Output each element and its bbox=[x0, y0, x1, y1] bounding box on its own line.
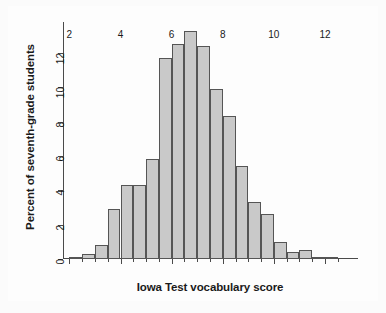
x-axis-minor-tick bbox=[159, 259, 160, 262]
x-tick-label: 6 bbox=[169, 29, 175, 40]
histogram-bar bbox=[248, 202, 261, 259]
histogram-bar bbox=[146, 159, 159, 259]
x-axis-minor-tick bbox=[108, 259, 109, 262]
x-axis-minor-tick bbox=[312, 259, 313, 262]
x-axis-minor-tick bbox=[248, 259, 249, 262]
histogram-bar bbox=[121, 185, 134, 259]
histogram-bar bbox=[159, 58, 172, 259]
y-tick-label: 10 bbox=[54, 87, 68, 98]
x-axis-tick bbox=[172, 259, 173, 264]
x-axis-tick bbox=[223, 259, 224, 264]
x-tick-label: 8 bbox=[220, 29, 226, 40]
histogram-bar bbox=[261, 214, 274, 259]
y-tick-label: 8 bbox=[54, 122, 68, 128]
histogram-bar bbox=[69, 257, 82, 259]
histogram-bar bbox=[312, 257, 325, 259]
histogram-bar bbox=[287, 252, 300, 259]
x-axis-minor-tick bbox=[236, 259, 237, 262]
y-axis-title: Percent of seventh-grade students bbox=[22, 22, 38, 252]
x-axis-tick bbox=[274, 259, 275, 264]
x-tick-label: 4 bbox=[118, 29, 124, 40]
histogram-bar bbox=[184, 31, 197, 259]
histogram-bar bbox=[95, 245, 108, 259]
x-axis-minor-tick bbox=[184, 259, 185, 262]
x-tick-label: 12 bbox=[319, 29, 330, 40]
y-tick-label: 12 bbox=[54, 53, 68, 64]
x-axis-minor-tick bbox=[146, 259, 147, 262]
x-axis-tick bbox=[69, 259, 70, 264]
histogram-bar bbox=[299, 250, 312, 259]
x-axis-minor-tick bbox=[299, 259, 300, 262]
y-tick-label: 2 bbox=[54, 225, 68, 231]
x-axis-minor-tick bbox=[133, 259, 134, 262]
x-axis-title: Iowa Test vocabulary score bbox=[60, 281, 360, 293]
histogram-bar bbox=[223, 116, 236, 259]
y-tick-label: 0 bbox=[54, 259, 68, 265]
x-axis-minor-tick bbox=[95, 259, 96, 262]
histogram-bar bbox=[210, 89, 223, 259]
x-axis-minor-tick bbox=[261, 259, 262, 262]
y-tick-label: 6 bbox=[54, 156, 68, 162]
x-axis-minor-tick bbox=[287, 259, 288, 262]
histogram-figure: Percent of seventh-grade students Iowa T… bbox=[0, 0, 386, 313]
histogram-bar bbox=[108, 209, 121, 259]
histogram-bar bbox=[82, 254, 95, 259]
histogram-bar bbox=[274, 242, 287, 259]
x-axis-tick bbox=[121, 259, 122, 264]
x-axis-minor-tick bbox=[197, 259, 198, 262]
x-axis-minor-tick bbox=[210, 259, 211, 262]
histogram-bar bbox=[325, 257, 338, 259]
x-axis-minor-tick bbox=[338, 259, 339, 262]
y-axis-title-text: Percent of seventh-grade students bbox=[22, 22, 38, 252]
histogram-bar bbox=[236, 166, 249, 259]
x-axis-tick bbox=[325, 259, 326, 264]
histogram-bar bbox=[172, 44, 185, 259]
plot-area: 02468101224681012 bbox=[63, 22, 348, 259]
histogram-bar bbox=[197, 46, 210, 259]
x-tick-label: 2 bbox=[67, 29, 73, 40]
x-tick-label: 10 bbox=[268, 29, 279, 40]
y-tick-label: 4 bbox=[54, 190, 68, 196]
histogram-bar bbox=[133, 185, 146, 259]
x-axis-minor-tick bbox=[82, 259, 83, 262]
